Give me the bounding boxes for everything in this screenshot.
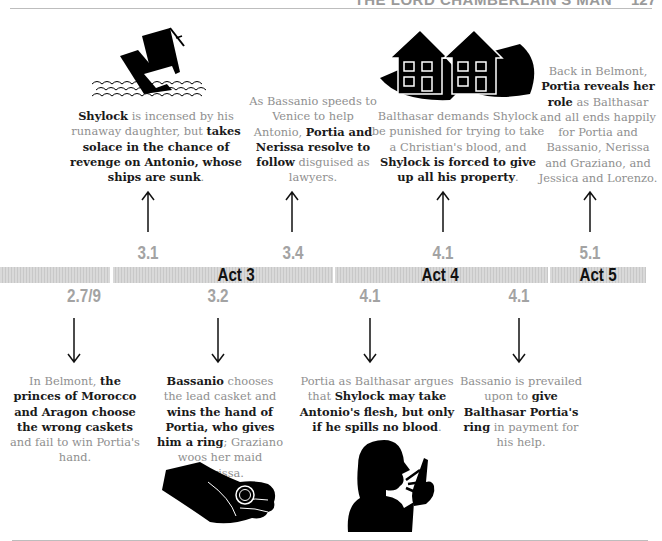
caption-bold: Shylock is forced to give up all his pro… xyxy=(380,155,536,184)
act-label: Act 4 xyxy=(408,264,472,286)
scene-number: 4.1 xyxy=(425,242,460,264)
act-label: Act 3 xyxy=(204,264,268,286)
caption-text: . xyxy=(515,170,519,184)
page-header: THE LORD CHAMBERLAIN'S MAN 127 xyxy=(0,0,662,10)
sinking-ship-icon xyxy=(92,14,212,100)
caption-text: In Belmont, xyxy=(29,374,100,388)
scene-number: 4.1 xyxy=(352,285,387,307)
scene-number: 4.1 xyxy=(501,285,536,307)
arrow-up-icon xyxy=(583,190,597,232)
arrow-down-icon xyxy=(512,318,526,364)
arrow-down-icon xyxy=(211,318,225,364)
houses-in-hands-icon xyxy=(380,22,540,102)
caption-bold: Shylock xyxy=(78,109,128,123)
caption-text: Balthasar demands Shylock be punished fo… xyxy=(372,109,545,154)
event-caption-4-1-top: Balthasar demands Shylock be punished fo… xyxy=(370,109,546,185)
timeline-bar-act-2 xyxy=(0,267,110,283)
event-caption-5-1: Back in Belmont, Portia reveals her role… xyxy=(536,64,660,186)
arrow-up-icon xyxy=(141,190,155,232)
scene-number: 3.4 xyxy=(275,242,310,264)
scene-number: 3.2 xyxy=(200,285,235,307)
caption-text: Back in Belmont, xyxy=(549,64,648,78)
caption-text: . xyxy=(201,170,205,184)
running-title: THE LORD CHAMBERLAIN'S MAN xyxy=(355,0,612,8)
caption-bold: Bassanio xyxy=(167,374,224,388)
caption-text: . xyxy=(438,420,442,434)
event-caption-4-1-bottom-b: Bassanio is prevailed upon to give Balth… xyxy=(458,374,584,450)
caption-text: disguised as lawyers. xyxy=(289,155,370,184)
scene-number: 2.7/9 xyxy=(60,285,108,307)
event-caption-2-7-9: In Belmont, the princes of Morocco and A… xyxy=(10,374,140,466)
caption-text: and fail to win Portia's hand. xyxy=(10,435,140,464)
event-caption-3-1: Shylock is incensed by his runaway daugh… xyxy=(68,109,244,185)
person-speaking-icon xyxy=(340,436,440,532)
hand-with-ring-icon xyxy=(160,460,280,530)
page-number: 127 xyxy=(631,0,656,8)
scene-number: 3.1 xyxy=(130,242,165,264)
scene-number: 5.1 xyxy=(572,242,607,264)
caption-text: in payment for his help. xyxy=(490,420,578,449)
header-rule xyxy=(10,8,652,9)
arrow-down-icon xyxy=(67,318,81,364)
event-caption-3-4: As Bassanio speeds to Venice to help Ant… xyxy=(248,94,378,186)
arrow-up-icon xyxy=(285,190,299,232)
caption-text: Bassanio is prevailed upon to xyxy=(460,374,582,403)
act-label: Act 5 xyxy=(566,264,630,286)
event-caption-4-1-bottom-a: Portia as Balthasar argues that Shylock … xyxy=(297,374,457,435)
arrow-up-icon xyxy=(436,190,450,232)
arrow-down-icon xyxy=(363,318,377,364)
